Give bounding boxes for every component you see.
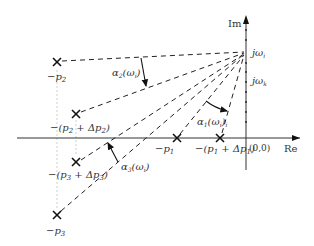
pole-label-p1: −p1 [155,143,174,156]
angle-label-alpha3: α3(ωi) [121,161,150,173]
omega-i-label: jωi [250,47,265,59]
root-locus-diagram: Im Re (0,0) jωi jωk −p2 −(p2 + Δp2) −(p3… [0,0,314,246]
alpha2-arrow-icon [141,58,146,86]
pole-x-icon-p2 [53,58,61,66]
alpha1-arrow-icon [206,101,227,111]
pole-label-p1-shift: −(p1 + Δp1) [195,143,255,156]
pole-x-icon-p3-shift [72,158,80,166]
angle-label-alpha2: α2(ωi) [112,67,141,79]
pole-label-p3-shift: −(p3 + Δp3) [48,169,108,182]
omega-k-label: jωk [250,75,267,87]
guide-lines [57,70,76,208]
pole-label-p2-shift: −(p2 + Δp2) [50,122,110,135]
pole-label-p3: −p3 [46,225,66,238]
real-axis-arrow-icon [292,135,300,141]
real-axis-label: Re [284,143,298,154]
pole-x-icon-p3 [53,211,61,219]
angle-label-alpha1: α1(ωi)i [197,116,227,128]
imag-axis-arrow-icon [243,15,249,24]
imag-axis-label: Im [228,18,242,29]
alpha3-arrow-icon [108,143,118,162]
pole-x-icon-p2-shift [72,110,80,118]
